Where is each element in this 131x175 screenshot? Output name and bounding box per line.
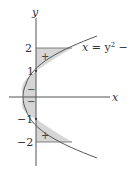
minus-sign-lower: − [27,96,35,107]
graph: y x 2 1 −1 −2 x = y2 − 1 + − − + [0,0,131,175]
point-y1 [35,70,37,72]
plus-sign-top: + [41,51,49,62]
tick-label-minus2: −2 [17,136,33,149]
tick-label-1: 1 [27,65,34,78]
plus-sign-bottom: + [41,130,49,141]
x-axis-label: x [112,91,119,104]
point-ym1 [35,118,37,120]
y-axis-label: y [31,6,39,19]
tick-label-2: 2 [25,42,32,55]
curve-label: x = y2 − 1 [82,41,131,54]
tick-label-minus1: −1 [17,113,33,126]
minus-sign-upper: − [27,84,35,95]
